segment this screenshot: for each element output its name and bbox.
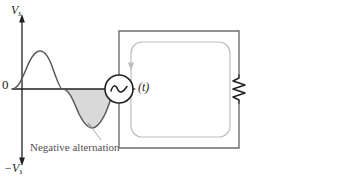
figure-root: Vs −Vs 0 (t) Negative alternation Vs − +…: [0, 0, 352, 182]
resistor-zigzag: [233, 75, 245, 103]
current-loop-arrowhead: [128, 63, 134, 72]
circuit-panel: Vs − + I R: [176, 0, 352, 182]
ac-source-circle: [105, 75, 133, 103]
circuit-graphic: [0, 0, 352, 182]
circuit-wire-outline-lower: [119, 103, 239, 148]
current-loop-path: [131, 42, 230, 137]
circuit-wire-outline: [119, 31, 239, 75]
